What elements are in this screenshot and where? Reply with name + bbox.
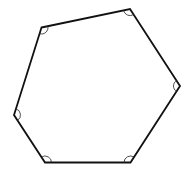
hexagon-outline [14, 9, 180, 163]
hexagon-diagram [0, 0, 194, 179]
